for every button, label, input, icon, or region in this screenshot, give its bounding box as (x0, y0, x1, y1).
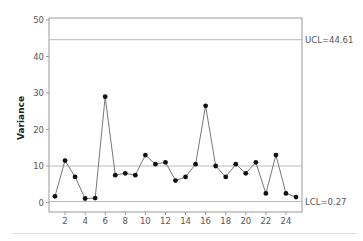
control-chart: 01020304050 24681012141618202224 UCL=44.… (0, 0, 363, 241)
x-tick-label: 8 (123, 216, 128, 226)
x-tick-label: 2 (62, 216, 67, 226)
data-point (233, 162, 238, 167)
y-tick-label: 40 (33, 52, 44, 62)
data-point (193, 162, 198, 167)
x-tick-label: 6 (102, 216, 107, 226)
x-tick-label: 16 (200, 216, 211, 226)
data-point (173, 178, 178, 183)
data-point (133, 173, 138, 178)
series-line (55, 97, 296, 199)
ucl-label: UCL=44.61 (305, 35, 353, 45)
data-point (243, 171, 248, 176)
x-tick-label: 12 (160, 216, 171, 226)
y-tick-label: 0 (39, 198, 44, 208)
x-tick-label: 20 (240, 216, 251, 226)
data-point (163, 160, 168, 165)
x-tick-label: 14 (180, 216, 191, 226)
data-point (183, 175, 188, 180)
data-point (294, 195, 299, 200)
data-series (53, 94, 299, 201)
lcl-label: LCL=0.27 (305, 197, 346, 207)
x-axis: 24681012141618202224 (62, 212, 291, 226)
control-lines (49, 40, 302, 202)
control-line-labels: UCL=44.61LCL=0.27 (305, 35, 353, 207)
y-axis-label: Variance (16, 96, 26, 140)
data-point (123, 171, 128, 176)
y-tick-label: 30 (33, 88, 44, 98)
y-tick-label: 50 (33, 15, 44, 25)
x-tick-label: 18 (220, 216, 231, 226)
data-point (73, 175, 78, 180)
data-point (274, 153, 279, 158)
data-point (143, 153, 148, 158)
data-point (253, 160, 258, 165)
data-point (53, 194, 58, 199)
data-point (93, 196, 98, 201)
data-point (83, 196, 88, 201)
data-point (203, 103, 208, 108)
data-point (213, 164, 218, 169)
x-tick-label: 4 (82, 216, 87, 226)
x-tick-label: 24 (281, 216, 292, 226)
x-tick-label: 22 (260, 216, 271, 226)
data-point (284, 191, 289, 196)
y-tick-label: 20 (33, 125, 44, 135)
data-point (223, 175, 228, 180)
y-tick-label: 10 (33, 161, 44, 171)
data-point (153, 162, 158, 167)
bottom-divider (12, 233, 357, 234)
data-point (263, 191, 268, 196)
data-point (113, 173, 118, 178)
data-point (103, 94, 108, 99)
x-tick-label: 10 (140, 216, 151, 226)
y-axis: 01020304050 (33, 15, 49, 208)
data-point (63, 158, 68, 163)
